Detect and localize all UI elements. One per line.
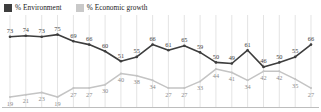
series-points-environment bbox=[9, 33, 313, 68]
line-chart: % Environment % Economic growth 73747375… bbox=[0, 0, 321, 112]
data-point bbox=[231, 72, 233, 74]
legend-label-economic-growth: % Economic growth bbox=[87, 4, 148, 12]
data-point bbox=[183, 44, 186, 47]
gridlines bbox=[10, 15, 311, 107]
data-point bbox=[120, 60, 123, 63]
square-swatch-icon bbox=[4, 4, 12, 12]
plot-area: 7374737569666051556661655950496146505566… bbox=[0, 15, 321, 112]
data-point bbox=[247, 79, 249, 81]
data-point bbox=[41, 92, 43, 94]
data-point bbox=[199, 80, 201, 82]
series-line-economic-growth bbox=[10, 69, 311, 97]
data-point bbox=[215, 61, 218, 64]
data-point bbox=[183, 87, 185, 89]
data-point bbox=[57, 96, 59, 98]
data-point bbox=[25, 94, 27, 96]
data-point bbox=[310, 87, 312, 89]
data-point bbox=[88, 87, 90, 89]
data-point bbox=[294, 78, 296, 80]
data-point bbox=[72, 40, 75, 43]
series-points-economic-growth bbox=[9, 68, 312, 98]
chart-legend: % Environment % Economic growth bbox=[4, 2, 148, 14]
data-point bbox=[262, 66, 265, 69]
data-point bbox=[152, 79, 154, 81]
data-point bbox=[231, 62, 234, 65]
data-point bbox=[310, 43, 313, 46]
legend-entry-economic-growth: % Economic growth bbox=[76, 4, 148, 12]
data-point bbox=[9, 96, 11, 98]
plot-svg bbox=[0, 15, 321, 112]
data-point bbox=[136, 75, 138, 77]
data-point bbox=[25, 34, 28, 37]
data-point bbox=[215, 68, 217, 70]
data-point bbox=[263, 70, 265, 72]
data-point bbox=[104, 50, 107, 53]
data-point bbox=[135, 56, 138, 59]
data-point bbox=[167, 49, 170, 52]
data-point bbox=[278, 61, 281, 64]
data-point bbox=[72, 87, 74, 89]
data-point bbox=[40, 36, 43, 39]
data-point bbox=[9, 36, 12, 39]
data-point bbox=[56, 33, 59, 36]
data-point bbox=[294, 56, 297, 59]
data-point bbox=[151, 43, 154, 46]
data-point bbox=[199, 51, 202, 54]
legend-entry-environment: % Environment bbox=[4, 4, 62, 12]
legend-label-environment: % Environment bbox=[15, 4, 62, 12]
data-point bbox=[246, 49, 249, 52]
data-point bbox=[120, 73, 122, 75]
series-line-environment bbox=[10, 35, 311, 67]
data-point bbox=[104, 84, 106, 86]
data-point bbox=[167, 87, 169, 89]
data-point bbox=[278, 70, 280, 72]
data-point bbox=[88, 43, 91, 46]
square-swatch-icon bbox=[76, 4, 84, 12]
